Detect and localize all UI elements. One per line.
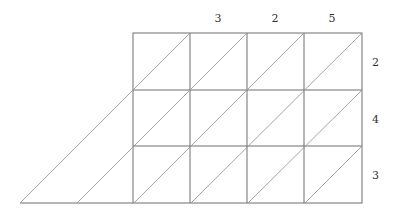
right-digits: 2 4 3 — [372, 56, 379, 182]
lattice-grid — [20, 33, 362, 203]
top-digits: 3 2 5 — [215, 12, 336, 25]
diagonals — [20, 33, 362, 203]
diagonal — [305, 146, 362, 203]
diagonal — [191, 33, 362, 203]
top-digit: 3 — [215, 12, 222, 25]
right-digit: 4 — [372, 113, 379, 126]
lattice-diagram: 3 2 5 2 4 3 — [0, 0, 399, 213]
top-digit: 2 — [272, 12, 279, 25]
right-digit: 3 — [372, 169, 379, 182]
right-digit: 2 — [372, 56, 379, 69]
diagonal — [20, 33, 190, 203]
top-digit: 5 — [329, 12, 336, 25]
diagonal — [134, 33, 304, 203]
diagonal — [77, 33, 247, 203]
